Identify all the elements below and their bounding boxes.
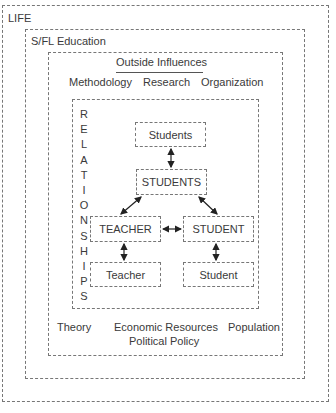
theory-label: Theory (57, 321, 91, 333)
political-policy-label: Political Policy (129, 335, 199, 347)
relationship-arrows (0, 0, 336, 413)
arrow-students-to-student (199, 197, 217, 214)
arrow-students-to-teacher (121, 197, 141, 214)
economic-resources-label: Economic Resources (114, 321, 218, 333)
population-label: Population (228, 321, 280, 333)
